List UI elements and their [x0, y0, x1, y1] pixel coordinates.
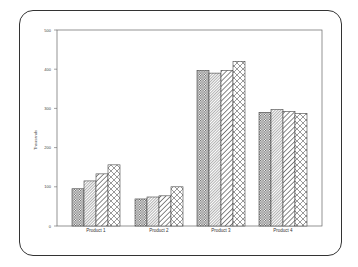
bar [147, 197, 159, 226]
y-tick-label: 200 [44, 145, 51, 150]
x-category-label: Product 3 [211, 228, 231, 233]
bar [233, 61, 245, 226]
bar [84, 181, 96, 226]
bar [259, 112, 271, 226]
y-axis-title: Thousands [33, 130, 38, 150]
x-category-label: Product 1 [86, 228, 106, 233]
bar [96, 174, 108, 226]
bars [72, 61, 307, 226]
y-tick-label: 100 [44, 184, 51, 189]
bar-group [72, 165, 120, 226]
bar-chart: 0100200300400500 Product 1Product 2Produ… [0, 0, 358, 267]
bar [221, 70, 233, 226]
bar [159, 196, 171, 226]
bar [171, 187, 183, 226]
bar [108, 165, 120, 226]
bar [209, 73, 221, 226]
bar-group [135, 187, 183, 226]
x-category-label: Product 2 [149, 228, 169, 233]
y-axis: 0100200300400500 [44, 28, 57, 229]
bar [135, 199, 147, 226]
bar [197, 70, 209, 226]
y-tick-label: 0 [49, 224, 52, 229]
bar [271, 110, 283, 226]
bar [283, 112, 295, 226]
y-tick-label: 300 [44, 106, 51, 111]
bar-group [197, 61, 245, 226]
x-category-label: Product 4 [273, 228, 293, 233]
y-tick-label: 500 [44, 28, 51, 33]
bar [295, 113, 307, 226]
bar-group [259, 110, 307, 226]
y-tick-label: 400 [44, 67, 51, 72]
bar [72, 189, 84, 226]
x-axis: Product 1Product 2Product 3Product 4 [86, 228, 293, 233]
